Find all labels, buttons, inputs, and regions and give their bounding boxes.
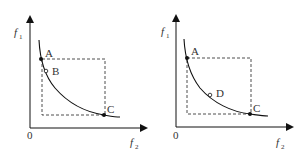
y-axis-subscript: 1 <box>19 33 23 41</box>
point-a <box>39 57 43 61</box>
label-a: A <box>45 47 53 59</box>
panel-right: A D C f 1 0 f 2 <box>161 16 292 151</box>
point-c <box>248 112 252 116</box>
label-c: C <box>107 103 114 115</box>
pareto-diagrams: A B C f 1 0 f 2 A D C f 1 0 f 2 <box>0 0 308 156</box>
label-b: B <box>52 65 59 77</box>
origin-label: 0 <box>27 129 33 141</box>
x-axis-subscript: 2 <box>281 143 285 151</box>
point-c <box>102 113 106 117</box>
point-b <box>44 69 48 73</box>
x-axis-subscript: 2 <box>135 143 139 151</box>
point-d <box>208 93 212 97</box>
origin-label: 0 <box>173 129 179 141</box>
label-c: C <box>253 102 260 114</box>
y-axis-subscript: 1 <box>166 32 170 40</box>
label-d: D <box>216 87 224 99</box>
dashed-box <box>187 58 251 114</box>
point-a <box>185 56 189 60</box>
panel-left: A B C f 1 0 f 2 <box>14 17 146 151</box>
label-a: A <box>191 45 199 57</box>
